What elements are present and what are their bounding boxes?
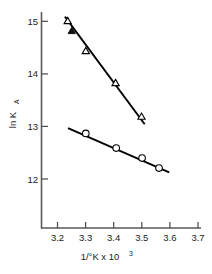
y-axis-title-subscript: A xyxy=(13,99,20,104)
x-axis-tick-labels: 3.2 3.3 3.4 3.5 3.6 3.7 xyxy=(51,232,205,243)
x-tick-label: 3.5 xyxy=(135,232,148,243)
y-tick-label: 14 xyxy=(27,68,38,79)
data-marker-circle xyxy=(139,155,146,162)
x-axis-title: 1/°K x 10 3 xyxy=(81,250,133,263)
data-marker-circle xyxy=(156,165,163,172)
chart-figure: 3.2 3.3 3.4 3.5 3.6 3.7 15 14 13 12 ln K… xyxy=(0,0,212,274)
axis-spines xyxy=(41,12,201,229)
y-axis-ticks xyxy=(42,21,49,179)
x-tick-label: 3.4 xyxy=(107,232,120,243)
x-axis-title-base: 1/°K x 10 xyxy=(81,251,120,262)
lower-series-group xyxy=(68,128,169,172)
data-marker-circle xyxy=(113,145,120,152)
y-axis-title-base: ln K xyxy=(7,111,18,128)
x-tick-label: 3.2 xyxy=(51,232,64,243)
upper-series-group xyxy=(64,17,145,125)
y-tick-label: 13 xyxy=(27,121,38,132)
upper-series-fit-line xyxy=(65,17,145,125)
y-tick-label: 15 xyxy=(27,16,38,27)
plot-canvas: 3.2 3.3 3.4 3.5 3.6 3.7 15 14 13 12 ln K… xyxy=(0,0,212,274)
x-tick-label: 3.7 xyxy=(191,232,204,243)
x-axis-ticks xyxy=(58,222,199,228)
y-axis-tick-labels: 15 14 13 12 xyxy=(27,16,38,185)
y-tick-label: 12 xyxy=(27,174,38,185)
x-axis-title-exponent: 3 xyxy=(129,250,133,257)
x-tick-label: 3.3 xyxy=(79,232,92,243)
data-marker-circle xyxy=(83,130,90,137)
x-tick-label: 3.6 xyxy=(163,232,176,243)
y-axis-title: ln K A xyxy=(7,99,20,128)
